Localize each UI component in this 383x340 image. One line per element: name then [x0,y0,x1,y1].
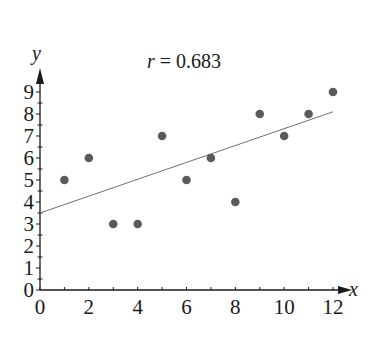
data-point [255,110,264,119]
y-tick-label: 1 [24,256,35,280]
x-axis-title: x [348,278,358,300]
y-tick-label: 6 [24,146,35,170]
data-point [329,88,338,97]
correlation-annotation: r = 0.683 [147,50,221,72]
data-point [280,132,289,141]
x-tick-label: 12 [323,295,344,319]
y-axis-arrow-icon [36,68,44,84]
y-tick-label: 8 [24,102,35,126]
y-tick-label: 4 [24,190,35,214]
x-tick-label: 8 [230,295,241,319]
y-tick-label: 7 [24,124,35,148]
y-tick-label: 0 [24,278,35,302]
data-point [109,220,118,229]
data-point [304,110,313,119]
data-point [231,198,240,207]
trendline [40,112,333,213]
x-tick-label: 4 [132,295,143,319]
x-tick-label: 6 [181,295,192,319]
data-point [133,220,142,229]
y-axis-title: y [30,42,41,65]
data-point [158,132,167,141]
data-point [60,176,69,185]
regression-line [40,112,333,213]
correlation-value: = 0.683 [155,50,221,72]
correlation-variable: r [147,50,155,72]
data-point [85,154,94,163]
y-tick-label: 3 [24,212,35,236]
scatter-chart: 0246810120123456789 x y r = 0.683 [0,0,383,340]
axis-ticks: 0246810120123456789 [24,80,344,319]
x-tick-label: 0 [35,295,46,319]
data-point [207,154,216,163]
x-tick-label: 2 [84,295,95,319]
y-tick-label: 5 [24,168,35,192]
x-tick-label: 10 [274,295,295,319]
axes [36,68,352,294]
y-tick-label: 2 [24,234,35,258]
y-tick-label: 9 [24,80,35,104]
data-point [182,176,191,185]
